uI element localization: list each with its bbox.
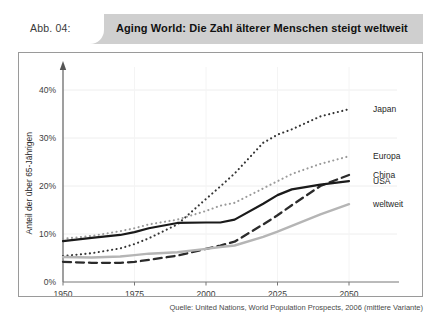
svg-text:10%: 10%: [39, 229, 56, 239]
legend-label-europa: Europa: [373, 151, 401, 161]
legend-label-weltweit: weltweit: [372, 199, 404, 209]
svg-text:30%: 30%: [39, 133, 56, 143]
x-axis: [63, 282, 399, 286]
y-axis: [60, 61, 66, 282]
y-axis-title: Anteil der über 65-Jährigen: [24, 132, 34, 235]
y-axis-tick-labels: 0%10%20%30%40%: [39, 85, 56, 287]
svg-text:2050: 2050: [340, 289, 359, 296]
legend-label-japan: Japan: [373, 104, 396, 114]
chart-container: 0%10%20%30%40% 19501975200020252050 Japa…: [18, 52, 423, 297]
svg-text:1975: 1975: [125, 289, 144, 296]
svg-text:1950: 1950: [54, 289, 73, 296]
legend-label-usa: USA: [373, 176, 391, 186]
svg-text:Anteil der über 65-Jährigen: Anteil der über 65-Jährigen: [24, 132, 34, 235]
source-caption: Quelle: United Nations, World Population…: [169, 303, 423, 312]
x-axis-tick-labels: 19501975200020252050: [54, 289, 359, 296]
figure-number-label: Abb. 04:: [30, 22, 71, 34]
line-chart: 0%10%20%30%40% 19501975200020252050 Japa…: [19, 53, 422, 296]
figure-title: Aging World: Die Zahl älterer Menschen s…: [116, 22, 408, 34]
svg-text:20%: 20%: [39, 181, 56, 191]
svg-text:0%: 0%: [44, 277, 57, 287]
svg-text:2025: 2025: [268, 289, 287, 296]
chart-legend: JapanEuropaChinaUSAweltweit: [372, 104, 404, 209]
svg-text:2000: 2000: [197, 289, 216, 296]
svg-text:40%: 40%: [39, 85, 56, 95]
figure-header-bar: Abb. 04: Aging World: Die Zahl älterer M…: [18, 14, 423, 44]
